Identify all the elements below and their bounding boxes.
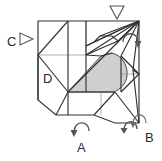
hollow-triangle-right (20, 33, 33, 45)
origami-figure (0, 0, 162, 161)
label-a: A (77, 141, 86, 154)
arrow-rotate-bottom-icon (71, 123, 90, 137)
label-b: B (145, 131, 154, 144)
rotate-head-b2 (130, 122, 136, 128)
arrow-left-right-icon (20, 33, 33, 45)
rotate-head-b1 (121, 128, 128, 134)
label-c: C (7, 35, 16, 48)
hollow-triangle-down (110, 6, 124, 19)
origami-diagram-canvas: A B C D (0, 0, 162, 161)
arrow-top-down-icon (110, 6, 124, 19)
rotate-head-a (71, 130, 78, 137)
label-d: D (43, 72, 52, 85)
